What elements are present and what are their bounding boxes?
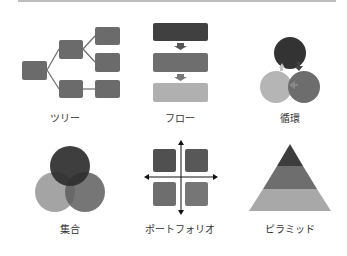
label-flow: フロー	[125, 110, 235, 125]
divider-line	[18, 0, 336, 2]
label-portfolio: ポートフォリオ	[125, 221, 235, 236]
tree-diagram-icon	[10, 15, 130, 125]
label-tree: ツリー	[10, 110, 120, 125]
category-cycle[interactable]: 循環	[235, 15, 345, 125]
label-cycle: 循環	[235, 110, 345, 125]
flow-diagram-icon	[125, 15, 235, 125]
category-venn[interactable]: 集合	[10, 135, 130, 245]
category-portfolio[interactable]: ポートフォリオ	[125, 135, 235, 245]
label-venn: 集合	[15, 221, 125, 236]
cycle-diagram-icon	[235, 15, 345, 125]
category-tree[interactable]: ツリー	[10, 15, 130, 125]
category-pyramid[interactable]: ピラミッド	[235, 135, 345, 245]
category-flow[interactable]: フロー	[125, 15, 235, 125]
label-pyramid: ピラミッド	[235, 221, 345, 236]
